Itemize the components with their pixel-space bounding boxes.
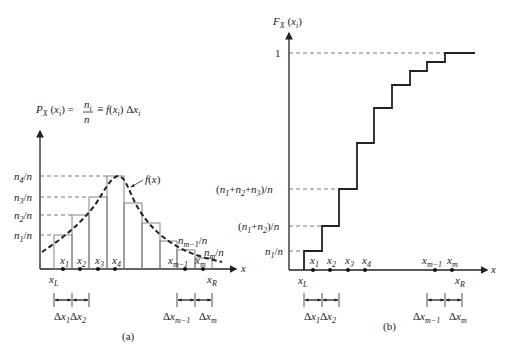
panel-b-x-label: x	[490, 263, 496, 275]
svg-text:Δxm: Δxm	[449, 310, 467, 325]
svg-text:x4: x4	[361, 254, 371, 269]
svg-text:x1: x1	[59, 254, 69, 269]
svg-text:x2: x2	[76, 254, 86, 269]
svg-text:n1/n: n1/n	[265, 245, 284, 260]
svg-text:Δxm−1: Δxm−1	[413, 310, 440, 325]
svg-text:xL: xL	[297, 274, 308, 289]
curve-label-fx: f(x)	[145, 173, 161, 186]
svg-text:x3: x3	[344, 254, 354, 269]
svg-text:xR: xR	[454, 274, 465, 289]
svg-text:(n1+n2)/n: (n1+n2)/n	[238, 220, 280, 235]
figure-canvas: PX (xi) = ni n ≡ f(xi) Δxi x	[0, 0, 510, 345]
svg-text:n2/n: n2/n	[14, 209, 33, 224]
panel-a-guides	[40, 176, 107, 235]
svg-text:Δx1Δx2: Δx1Δx2	[54, 310, 86, 325]
panel-b-point-labels: x1 x2 x3 x4 xm−1 xm xL xR	[297, 254, 465, 289]
svg-text:Δxm: Δxm	[199, 310, 217, 325]
svg-text:x1: x1	[309, 254, 319, 269]
panel-b-y-ticks: 1 (n1+n2+n3)/n (n1+n2)/n n1/n	[216, 47, 284, 260]
panel-a-intervals	[54, 293, 212, 307]
svg-text:n4/n: n4/n	[14, 170, 33, 185]
svg-text:n: n	[84, 113, 90, 125]
svg-text:ni: ni	[84, 98, 92, 113]
panel-a-point-labels: x1 x2 x3 x4 xm−1 xm xL xR	[48, 254, 217, 288]
svg-text:Δx1Δx2: Δx1Δx2	[304, 310, 336, 325]
svg-text:x3: x3	[94, 254, 104, 269]
panel-a-x-label: x	[240, 262, 246, 274]
svg-text:xL: xL	[48, 273, 59, 288]
panel-b-intervals	[304, 293, 462, 307]
svg-text:Δxm−1: Δxm−1	[163, 310, 190, 325]
density-curve-fx	[42, 176, 222, 262]
svg-text:≡ f(xi) Δxi: ≡ f(xi) Δxi	[97, 103, 140, 118]
panel-b-cdf: FX (xi) x 1 (n1+n2+n3)/n (n1+n2)/n n1/n …	[216, 15, 496, 333]
svg-text:n3/n: n3/n	[14, 191, 33, 206]
panel-b-caption: (b)	[383, 320, 396, 333]
panel-b-guides	[289, 53, 445, 251]
panel-a-y-ticks: n4/n n3/n n2/n n1/n	[14, 170, 33, 244]
svg-text:xm−1: xm−1	[421, 254, 442, 269]
svg-text:xm−1: xm−1	[167, 254, 188, 269]
panel-a-interval-labels: Δx1Δx2 Δxm−1 Δxm	[54, 310, 217, 325]
svg-text:x2: x2	[326, 254, 336, 269]
svg-text:1: 1	[275, 47, 281, 59]
svg-text:n1/n: n1/n	[14, 229, 33, 244]
panel-a-histogram: PX (xi) = ni n ≡ f(xi) Δxi x	[14, 98, 246, 343]
panel-b-y-title: FX (xi)	[272, 15, 302, 30]
panel-a-caption: (a)	[122, 330, 135, 343]
panel-a-y-title: PX (xi) = ni n ≡ f(xi) Δxi	[35, 98, 140, 125]
svg-text:xm: xm	[446, 254, 458, 269]
svg-text:x4: x4	[111, 254, 121, 269]
cdf-step-curve	[304, 53, 475, 270]
svg-text:(n1+n2+n3)/n: (n1+n2+n3)/n	[216, 183, 273, 198]
svg-text:xR: xR	[206, 273, 217, 288]
svg-text:PX (xi) =: PX (xi) =	[35, 103, 74, 118]
